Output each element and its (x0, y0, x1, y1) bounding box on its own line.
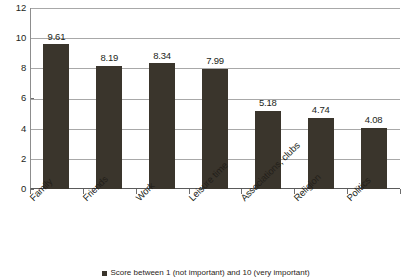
chart-legend: Score between 1 (not important) and 10 (… (0, 268, 412, 278)
y-tick-label-12: 12 (4, 3, 26, 13)
bar-slot-work: 8.34 (136, 8, 189, 189)
bar-friends[interactable] (96, 66, 122, 190)
bar-slot-friends: 8.19 (83, 8, 136, 189)
bar-value-leisure-time: 7.99 (206, 56, 224, 66)
bars-layer: 9.61 8.19 8.34 7.99 5.18 4.74 4.08 (30, 8, 400, 189)
bar-work[interactable] (149, 63, 175, 189)
legend-swatch-icon (102, 271, 107, 276)
bar-slot-family: 9.61 (30, 8, 83, 189)
bar-slot-politics: 4.08 (347, 8, 400, 189)
bar-value-religion: 4.74 (312, 105, 330, 115)
y-tick-label-0: 0 (4, 184, 26, 194)
bar-value-friends: 8.19 (100, 53, 118, 63)
bar-slot-religion: 4.74 (294, 8, 347, 189)
x-tick-mark-7 (400, 189, 401, 194)
y-tick-label-4: 4 (4, 124, 26, 134)
y-tick-label-2: 2 (4, 154, 26, 164)
bar-value-family: 9.61 (48, 32, 66, 42)
y-tick-label-10: 10 (4, 33, 26, 43)
legend-label: Score between 1 (not important) and 10 (… (110, 268, 309, 277)
y-axis-labels: 12 10 8 6 4 2 0 (0, 0, 26, 189)
bar-value-work: 8.34 (153, 51, 171, 61)
bar-value-politics: 4.08 (365, 115, 383, 125)
y-tick-label-8: 8 (4, 63, 26, 73)
bar-value-associations-clubs: 5.18 (259, 98, 277, 108)
bar-chart: 12 10 8 6 4 2 0 9.61 8.19 8.34 (0, 0, 412, 278)
bar-family[interactable] (43, 44, 69, 189)
bar-slot-leisure-time: 7.99 (189, 8, 242, 189)
y-tick-label-6: 6 (4, 93, 26, 103)
